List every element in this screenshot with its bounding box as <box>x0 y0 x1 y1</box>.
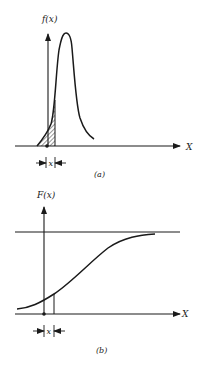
y-axis-label: F(x) <box>36 190 56 200</box>
origin-dot <box>45 144 49 148</box>
shaded-area <box>37 100 55 146</box>
interval-label: x <box>47 327 52 336</box>
panel-a-pdf: f(x) X x (a) <box>15 14 193 179</box>
interval-marker: x <box>33 325 65 337</box>
origin-dot <box>42 312 46 316</box>
panel-b-cdf: F(x) X x (b) <box>15 190 189 355</box>
caption-a: (a) <box>94 170 105 179</box>
x-axis-label: X <box>181 309 189 319</box>
x-axis-label: X <box>185 142 193 152</box>
density-curve <box>37 33 94 146</box>
figure-canvas: f(x) X x (a) F(x) X x <box>0 0 204 373</box>
interval-marker: x <box>36 157 66 168</box>
caption-b: (b) <box>96 346 107 355</box>
y-axis-label: f(x) <box>41 14 58 24</box>
interval-label: x <box>49 159 54 168</box>
cdf-curve <box>17 234 155 309</box>
